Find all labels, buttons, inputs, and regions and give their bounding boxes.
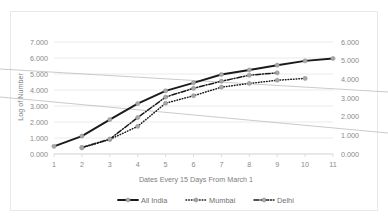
data-point-marker	[136, 102, 140, 106]
y-axis-secondary-tick-label: 2.000	[341, 112, 359, 121]
legend-label: Mumbai	[209, 196, 236, 205]
data-point-marker	[191, 81, 195, 85]
x-axis-tick-label: 7	[219, 160, 223, 169]
data-point-marker	[52, 144, 56, 148]
y-axis-tick-label: 5.000	[30, 70, 48, 79]
y-axis-tick-label: 1.000	[30, 134, 48, 143]
y-axis-secondary-tick-label: 1.000	[341, 131, 359, 140]
data-point-marker	[136, 116, 140, 120]
data-point-marker	[247, 73, 251, 77]
y-axis-secondary-tick-label: 4.000	[341, 75, 359, 84]
line-chart: 0.0001.0002.0003.0004.0005.0006.0007.000…	[0, 0, 388, 223]
x-axis-tick-label: 3	[108, 160, 112, 169]
x-axis-tick-label: 2	[80, 160, 84, 169]
data-point-marker	[191, 86, 195, 90]
data-point-marker	[303, 59, 307, 63]
legend-label: Delhi	[277, 196, 294, 205]
chart-container: 0.0001.0002.0003.0004.0005.0006.0007.000…	[0, 0, 388, 223]
data-point-marker	[108, 137, 112, 141]
y-axis-secondary-tick-label: 5.000	[341, 56, 359, 65]
data-point-marker	[219, 72, 223, 76]
x-axis-tick-label: 8	[247, 160, 251, 169]
data-point-marker	[303, 76, 307, 80]
data-point-marker	[275, 63, 279, 67]
data-point-marker	[331, 56, 335, 60]
data-point-marker	[108, 118, 112, 122]
data-point-marker	[164, 101, 168, 105]
x-axis-tick-label: 1	[52, 160, 56, 169]
data-point-marker	[275, 78, 279, 82]
data-point-marker	[275, 71, 279, 75]
chart-background	[0, 0, 388, 223]
y-axis-title: Log of Number	[16, 73, 25, 121]
y-axis-tick-label: 0.000	[30, 150, 48, 159]
data-point-marker	[80, 134, 84, 138]
data-point-marker	[191, 94, 195, 98]
legend-label: All India	[141, 196, 168, 205]
x-axis-tick-label: 10	[301, 160, 309, 169]
y-axis-tick-label: 7.000	[30, 38, 48, 47]
legend-swatch-marker	[262, 198, 266, 202]
legend-swatch-marker	[126, 198, 130, 202]
y-axis-tick-label: 2.000	[30, 118, 48, 127]
data-point-marker	[136, 124, 140, 128]
x-axis-tick-label: 6	[192, 160, 196, 169]
y-axis-tick-label: 3.000	[30, 102, 48, 111]
data-point-marker	[247, 81, 251, 85]
data-point-marker	[219, 79, 223, 83]
data-point-marker	[164, 95, 168, 99]
y-axis-tick-label: 6.000	[30, 54, 48, 63]
y-axis-secondary-tick-label: 6.000	[341, 38, 359, 47]
data-point-marker	[80, 145, 84, 149]
y-axis-tick-label: 4.000	[30, 86, 48, 95]
y-axis-secondary-tick-label: 0.000	[341, 150, 359, 159]
y-axis-secondary-tick-label: 3.000	[341, 94, 359, 103]
x-axis-tick-label: 5	[164, 160, 168, 169]
x-axis-tick-label: 9	[275, 160, 279, 169]
data-point-marker	[247, 68, 251, 72]
x-axis-tick-label: 4	[136, 160, 140, 169]
data-point-marker	[219, 85, 223, 89]
data-point-marker	[164, 89, 168, 93]
legend-swatch-marker	[194, 198, 198, 202]
x-axis-title: Dates Every 15 Days From March 1	[139, 175, 253, 184]
x-axis-tick-label: 11	[329, 160, 336, 169]
